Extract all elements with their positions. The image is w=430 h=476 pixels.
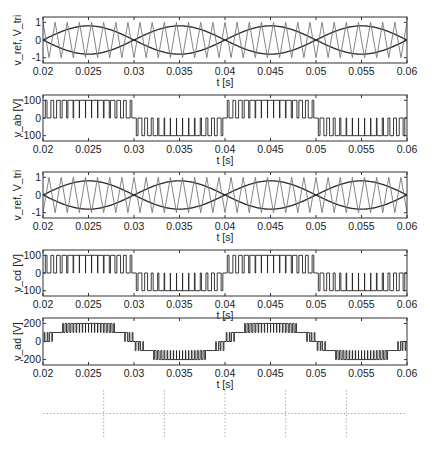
x-tick-label: 0.05: [306, 143, 327, 155]
x-tick-label: 0.03: [124, 367, 145, 379]
x-tick-label: 0.055: [348, 367, 374, 379]
x-tick-label: 0.055: [348, 220, 374, 232]
x-tick-label: 0.06: [397, 367, 418, 379]
carrier-triangle: [25, 177, 419, 212]
x-tick-label: 0.02: [33, 220, 54, 232]
y-tick-label: 0: [35, 335, 41, 347]
x-tick-label: 0.06: [397, 143, 418, 155]
x-tick-label: 0.06: [397, 65, 418, 77]
plot-area-p4: [43, 255, 407, 290]
x-tick-label: 0.03: [124, 143, 145, 155]
y-tick-label: 100: [23, 94, 41, 106]
x-tick-label: 0.02: [33, 65, 54, 77]
y-axis-label: v_ref, V_tri: [11, 15, 23, 66]
x-axis-label: t [s]: [217, 231, 234, 243]
x-tick-label: 0.05: [306, 367, 327, 379]
y-tick-label: -100: [20, 129, 41, 141]
y-tick-label: -1: [32, 51, 41, 63]
x-tick-label: 0.03: [124, 65, 145, 77]
plot-area-p3: [25, 177, 419, 212]
plot-area-p5: [43, 323, 407, 359]
panel-p6: [43, 390, 407, 437]
figure: 0.020.0250.030.0350.040.0450.050.0550.06…: [0, 0, 430, 476]
x-tick-label: 0.02: [33, 367, 54, 379]
x-tick-label: 0.03: [124, 298, 145, 310]
x-axis-label: t [s]: [217, 378, 234, 390]
x-tick-label: 0.045: [257, 220, 283, 232]
panel-p1: 0.020.0250.030.0350.040.0450.050.0550.06…: [11, 15, 419, 88]
y-axis-label: v_ad [V]: [11, 322, 23, 361]
x-tick-label: 0.035: [166, 143, 192, 155]
x-tick-label: 0.025: [75, 220, 101, 232]
plot-area-p6: [43, 390, 407, 437]
y-tick-label: 1: [35, 171, 41, 183]
x-tick-label: 0.05: [306, 220, 327, 232]
plot-area-p1: [31, 22, 419, 57]
x-tick-label: 0.045: [257, 65, 283, 77]
x-tick-label: 0.035: [166, 220, 192, 232]
x-tick-label: 0.05: [306, 298, 327, 310]
y-tick-label: -200: [20, 353, 41, 365]
y-axis-label: v_ref, V_tri: [11, 170, 23, 221]
y-tick-label: 0: [35, 34, 41, 46]
x-tick-label: 0.025: [75, 298, 101, 310]
y-axis-label: v_ab [V]: [11, 99, 23, 138]
x-tick-label: 0.03: [124, 220, 145, 232]
y-tick-label: -1: [32, 206, 41, 218]
x-tick-label: 0.025: [75, 65, 101, 77]
y-tick-label: 0: [35, 267, 41, 279]
x-axis-label: t [s]: [217, 76, 234, 88]
panel-p2: 0.020.0250.030.0350.040.0450.050.0550.06…: [11, 94, 417, 166]
x-tick-label: 0.06: [397, 220, 418, 232]
x-tick-label: 0.02: [33, 143, 54, 155]
x-tick-label: 0.035: [166, 65, 192, 77]
y-axis-label: v_cd [V]: [11, 254, 23, 292]
x-tick-label: 0.02: [33, 298, 54, 310]
reference-sine: [43, 181, 407, 209]
x-tick-label: 0.055: [348, 298, 374, 310]
x-tick-label: 0.035: [166, 298, 192, 310]
x-tick-label: 0.055: [348, 65, 374, 77]
x-tick-label: 0.045: [257, 143, 283, 155]
panel-p5: 0.020.0250.030.0350.040.0450.050.0550.06…: [11, 317, 417, 390]
five-level-signal: [43, 323, 407, 359]
x-tick-label: 0.05: [306, 65, 327, 77]
y-tick-label: 0: [35, 189, 41, 201]
y-tick-label: -100: [20, 284, 41, 296]
x-tick-label: 0.06: [397, 298, 418, 310]
plot-area-p2: [43, 100, 407, 135]
pwm-signal-v_cd: [43, 255, 407, 290]
reference-sine: [43, 26, 407, 54]
x-tick-label: 0.045: [257, 367, 283, 379]
y-tick-label: 1: [35, 16, 41, 28]
pwm-signal-v_ab: [43, 100, 407, 135]
x-tick-label: 0.045: [257, 298, 283, 310]
y-tick-label: 0: [35, 112, 41, 124]
x-tick-label: 0.025: [75, 143, 101, 155]
panel-p3: 0.020.0250.030.0350.040.0450.050.0550.06…: [11, 170, 419, 243]
x-tick-label: 0.035: [166, 367, 192, 379]
x-tick-label: 0.025: [75, 367, 101, 379]
panel-p4: 0.020.0250.030.0350.040.0450.050.0550.06…: [11, 249, 417, 321]
y-tick-label: 100: [23, 249, 41, 261]
x-axis-label: t [s]: [217, 154, 234, 166]
x-tick-label: 0.055: [348, 143, 374, 155]
y-tick-label: 200: [23, 317, 41, 329]
